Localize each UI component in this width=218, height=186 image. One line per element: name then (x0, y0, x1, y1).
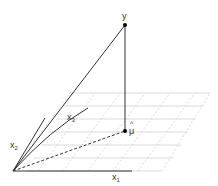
mu-hat-point (123, 129, 127, 133)
x2-label: x2 (10, 140, 19, 151)
y-label: y (122, 11, 127, 21)
diagram-canvas: y ^ μ x1 x2 x3 (0, 0, 218, 186)
fitted-vector (13, 131, 125, 171)
y-point (123, 23, 127, 27)
x1-label: x1 (112, 172, 121, 183)
y-vector (13, 25, 125, 171)
x3-vector (13, 108, 88, 171)
mu-hat-label: μ (129, 126, 134, 136)
x3-label: x3 (67, 112, 76, 123)
